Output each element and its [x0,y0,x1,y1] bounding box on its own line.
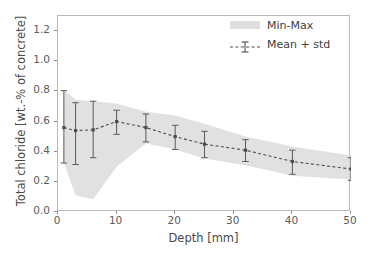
y-tick-mark [54,90,57,91]
errorbar-line-sample [230,38,260,50]
mean-marker [291,160,294,163]
y-tick-label: 0.4 [0,144,50,156]
x-tick-label: 50 [330,214,370,226]
y-tick-label: 1.0 [0,53,50,65]
y-tick-label: 0.8 [0,83,50,95]
mean-marker [144,126,147,129]
y-tick-mark [54,151,57,152]
legend-label-min-max: Min-Max [267,19,313,32]
y-tick-mark [54,30,57,31]
band-swatch [230,19,260,31]
y-tick-label: 1.2 [0,23,50,35]
y-tick-mark [54,60,57,61]
legend-item-mean-std: Mean + std [230,37,330,51]
chart-figure: Total chloride [wt.-% of concrete] Min-M… [0,0,371,253]
mean-marker [92,128,95,131]
x-tick-label: 10 [96,214,136,226]
x-tick-label: 40 [271,214,311,226]
mean-marker [62,126,65,129]
legend-label-mean-std: Mean + std [267,38,330,51]
mean-marker [244,149,247,152]
mean-marker [349,167,351,170]
mean-marker [115,120,118,123]
x-tick-label: 20 [154,214,194,226]
x-tick-label: 30 [213,214,253,226]
mean-marker [174,135,177,138]
x-axis-title: Depth [mm] [57,231,350,245]
mean-marker [203,143,206,146]
mean-marker [74,129,77,132]
y-tick-mark [54,121,57,122]
chart-legend: Min-Max Mean + std [230,18,330,51]
y-tick-label: 0.6 [0,114,50,126]
y-tick-mark [54,211,57,212]
y-tick-label: 0.0 [0,204,50,216]
y-tick-mark [54,181,57,182]
legend-item-min-max: Min-Max [230,18,330,32]
y-tick-label: 0.2 [0,174,50,186]
